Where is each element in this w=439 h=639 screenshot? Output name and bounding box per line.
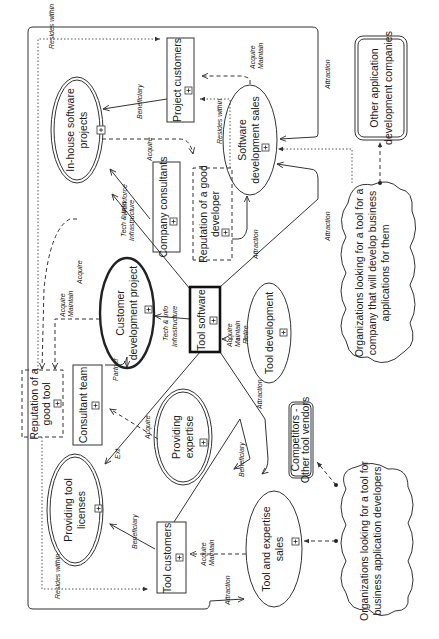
label-acquire-top: Acquire <box>146 137 154 162</box>
label-acquire-maintain-top-2: Maintain <box>257 42 264 69</box>
expand-icon[interactable] <box>145 306 152 313</box>
label-acquire-left: Acquire <box>76 260 84 285</box>
node-tool-development[interactable]: Tool development <box>247 283 291 383</box>
node-label: Other tool vendors <box>299 397 311 483</box>
node-label: Consultant team <box>77 367 89 444</box>
edge-beneficiary-top <box>103 99 167 109</box>
diagram-canvas: Resides within Beneficiary Acquire Workf… <box>0 0 439 639</box>
label-am-bottom-1: Acquire <box>200 542 208 567</box>
node-inhouse-projects[interactable]: In-house software projects <box>51 77 105 183</box>
edge-resides-within-dev <box>200 99 230 168</box>
node-reputation-tool[interactable]: Reputation of a good tool <box>22 368 63 439</box>
node-reputation-developer[interactable]: Reputation of a good developer <box>193 165 232 263</box>
label-beneficiary-expertise: Beneficiary <box>238 442 246 477</box>
edge-attraction-mid <box>220 164 318 287</box>
node-label: Organizations looking for a tool for a <box>353 189 365 358</box>
label-tech-info-mid-2: Infrastructure <box>171 306 178 347</box>
node-label: good tool <box>40 382 52 425</box>
expand-icon[interactable] <box>222 229 229 236</box>
node-cloud-app-developers[interactable]: Organizations looking for a tool for bus… <box>341 461 413 621</box>
node-customer-dev-project[interactable]: Customer development project <box>100 258 154 368</box>
label-attraction-low: Attraction <box>256 379 263 410</box>
edge-cloud2-to-competitors <box>317 462 336 485</box>
label-beneficiary-licenses: Beneficiary <box>131 514 139 549</box>
node-providing-licenses[interactable]: Providing tool licenses <box>47 454 103 566</box>
node-label: Tool software <box>195 289 207 351</box>
node-company-consultants[interactable]: Company consultants <box>153 157 180 258</box>
label-acquire-maintain-left-2: Maintain <box>67 290 74 317</box>
label-attraction-mid: Attraction <box>324 211 331 242</box>
label-tech-info-top-1: Tech & Info <box>120 202 127 237</box>
node-software-dev-sales[interactable]: Software development sales <box>223 85 277 195</box>
expand-icon[interactable] <box>170 218 177 225</box>
node-label: Software <box>236 119 248 161</box>
expand-icon[interactable] <box>54 400 61 407</box>
expand-icon[interactable] <box>262 144 269 151</box>
expand-icon[interactable] <box>95 505 102 512</box>
label-resides-within-bottom: Resides within <box>54 554 61 599</box>
label-attraction-dev: Attraction <box>252 229 259 260</box>
node-label: licenses <box>75 491 87 529</box>
node-label: Other application <box>368 48 380 128</box>
node-label: Customer <box>114 290 126 336</box>
label-acquire-maintain-top-1: Acquire <box>249 45 257 70</box>
label-acquire-consult: Acquire <box>144 415 152 440</box>
label-amr-3: Retire <box>242 325 249 344</box>
node-label: business application developers <box>371 467 383 616</box>
label-attraction-top: Attraction <box>324 59 331 90</box>
node-label: Providing <box>170 415 182 459</box>
expand-icon[interactable] <box>210 317 217 324</box>
node-label: development sales <box>249 96 261 184</box>
label-amr-2: Maintain <box>234 320 241 347</box>
label-tech-info-top-2: Infrastructure <box>128 200 135 241</box>
expand-icon[interactable] <box>280 329 287 336</box>
expand-icon[interactable] <box>200 439 207 446</box>
node-providing-expertise[interactable]: Providing expertise <box>154 389 212 485</box>
node-label: applications for them <box>379 224 391 321</box>
node-label: Providing tool <box>62 478 74 542</box>
node-label: development project <box>127 266 139 361</box>
node-competitors[interactable]: Competitors - Other tool vendors <box>289 397 313 483</box>
expand-icon[interactable] <box>97 126 105 134</box>
edge-attraction-dev <box>232 196 247 239</box>
node-tool-software[interactable]: Tool software <box>190 287 220 352</box>
outer-frame-left <box>28 604 200 609</box>
label-attraction-bottom: Attraction <box>224 575 231 606</box>
edge-attraction-bottom <box>200 599 244 609</box>
edge-acquire-maintain-left <box>55 319 100 369</box>
expand-icon[interactable] <box>292 538 299 545</box>
node-label: Reputation of a <box>28 368 40 439</box>
node-label: expertise <box>183 416 195 459</box>
edge-attraction-top <box>280 32 318 139</box>
expand-icon[interactable] <box>185 87 192 94</box>
node-cloud-business-apps[interactable]: Organizations looking for a tool for a c… <box>341 182 416 363</box>
expand-icon[interactable] <box>92 402 99 409</box>
value-network-diagram: Resides within Beneficiary Acquire Workf… <box>0 0 439 639</box>
expand-icon[interactable] <box>176 554 183 561</box>
node-label: Tool customers <box>161 523 173 594</box>
label-beneficiary-top: Beneficiary <box>136 84 144 119</box>
node-label: Project customers <box>171 38 183 122</box>
node-label: Organizations looking for a tool for <box>358 461 370 621</box>
node-label: sales <box>273 537 285 562</box>
node-consultant-team[interactable]: Consultant team <box>73 365 102 445</box>
node-project-customers[interactable]: Project customers <box>167 38 194 122</box>
label-am-bottom-2: Maintain <box>208 539 215 566</box>
node-tool-expertise-sales[interactable]: Tool and expertise sales <box>246 491 302 607</box>
label-resides-within-dev: Resides within <box>216 99 223 144</box>
node-label: Company consultants <box>157 157 169 258</box>
node-label: Reputation of a good <box>197 165 209 263</box>
label-resides-within-top: Resides within <box>48 4 55 49</box>
node-label: In-house software <box>64 88 76 172</box>
node-other-app-dev[interactable]: Other application development companies <box>355 31 407 145</box>
label-ext: Ext <box>114 448 121 459</box>
node-label: Tool and expertise <box>260 506 272 591</box>
node-tool-customers[interactable]: Tool customers <box>157 522 186 593</box>
label-amr-1: Acquire <box>226 323 234 348</box>
node-label: Tool development <box>263 292 275 374</box>
edge-acquire-maintain-top <box>202 76 250 84</box>
label-tech-info-mid-1: Tech & Info <box>162 306 169 341</box>
label-acquire-maintain-left-1: Acquire <box>59 293 67 318</box>
node-label: development companies <box>382 31 394 145</box>
node-label: company that will develop business <box>366 191 378 356</box>
